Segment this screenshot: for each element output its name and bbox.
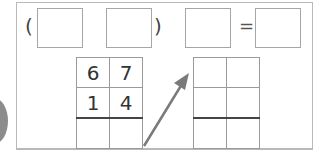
grid-cell: 1 (77, 88, 110, 119)
answer-box-2[interactable] (106, 8, 152, 48)
grid-answer-cell[interactable] (227, 118, 260, 149)
right-addition-grid (193, 57, 260, 149)
grid-cell[interactable] (194, 58, 227, 88)
gray-circle-decoration (0, 98, 8, 144)
arrow-icon (140, 70, 190, 150)
grid-answer-cell[interactable] (110, 118, 143, 149)
grid-cell[interactable] (227, 58, 260, 88)
answer-box-3[interactable] (185, 8, 231, 48)
grid-cell: 6 (77, 58, 110, 88)
equals-sign: = (239, 16, 254, 36)
close-paren: ) (154, 16, 162, 36)
grid-cell: 7 (110, 58, 143, 88)
grid-cell: 4 (110, 88, 143, 119)
grid-cell[interactable] (194, 88, 227, 119)
grid-answer-cell[interactable] (77, 118, 110, 149)
grid-answer-cell[interactable] (194, 118, 227, 149)
open-paren: ( (25, 16, 33, 36)
answer-box-4[interactable] (255, 8, 301, 48)
left-addition-grid: 6 7 1 4 (76, 57, 143, 149)
grid-cell[interactable] (227, 88, 260, 119)
answer-box-1[interactable] (37, 8, 83, 48)
